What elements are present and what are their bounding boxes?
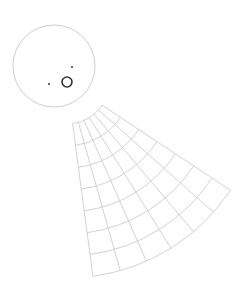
point-dot	[71, 66, 73, 68]
fan-radial-line	[84, 120, 146, 261]
fan-radial-line	[102, 105, 230, 190]
head-circle	[13, 25, 95, 107]
vision-fan-diagram	[0, 0, 248, 286]
fan-radial-line	[73, 124, 93, 277]
fan-radial-line	[98, 110, 213, 212]
fan-radial-line	[89, 118, 171, 249]
fan-radial-line	[78, 122, 120, 270]
point-dot	[48, 83, 50, 85]
fan-grid	[73, 105, 231, 276]
diagram-canvas	[0, 0, 248, 286]
fan-arc	[73, 105, 102, 123]
fan-radial-line	[94, 114, 193, 232]
